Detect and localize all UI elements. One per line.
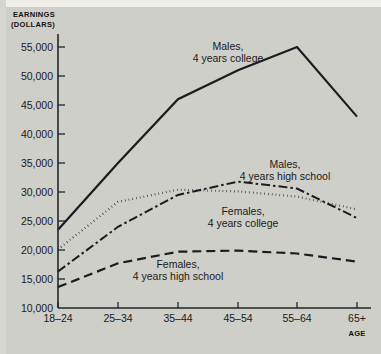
earnings-by-age-line-chart: EARNINGS (DOLLARS) 55,000 50,000 45,000 … [0,0,381,354]
y-tick-label-20000: 20,000 [21,244,53,256]
y-axis-title-line2: (DOLLARS) [11,20,55,29]
x-tick-label-18-24: 18–24 [43,312,72,324]
y-axis-title-line1: EARNINGS [13,10,55,19]
annotation-males-college-line1: Males, [213,40,244,52]
y-tick-label-15000: 15,000 [21,273,53,285]
y-tick-label-50000: 50,000 [21,70,53,82]
x-axis-title: AGE [348,329,365,338]
x-tick-label-35-44: 35–44 [163,312,192,324]
annotation-females-highschool-line2: 4 years high school [133,270,223,282]
x-tick-label-55-64: 55–64 [282,312,311,324]
x-tick-label-25-34: 25–34 [103,312,132,324]
annotation-males-highschool-line2: 4 years high school [240,170,330,182]
series-line-males-4-years-college [58,47,357,230]
annotation-males-highschool-line1: Males, [270,158,301,170]
y-tick-label-35000: 35,000 [21,157,53,169]
y-tick-label-40000: 40,000 [21,128,53,140]
annotation-females-college-line1: Females, [221,205,264,217]
x-axis-ticks [58,302,357,308]
x-tick-label-45-54: 45–54 [223,312,252,324]
y-tick-label-45000: 45,000 [21,99,53,111]
x-tick-label-65plus: 65+ [348,312,366,324]
annotation-females-highschool-line1: Females, [156,258,199,270]
y-tick-label-30000: 30,000 [21,186,53,198]
y-tick-label-25000: 25,000 [21,215,53,227]
chart-svg: EARNINGS (DOLLARS) 55,000 50,000 45,000 … [0,0,381,354]
y-tick-label-55000: 55,000 [21,41,53,53]
annotation-males-college-line2: 4 years college [193,52,264,64]
annotation-females-college-line2: 4 years college [208,217,279,229]
